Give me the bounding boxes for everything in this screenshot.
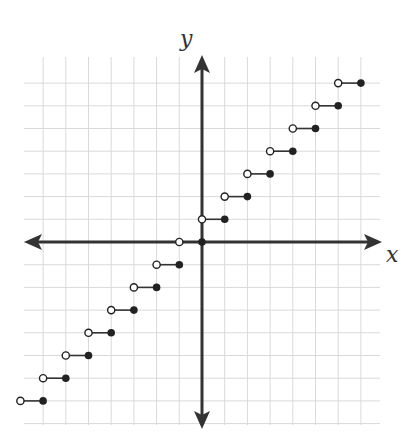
closed-endpoint-icon <box>153 284 161 292</box>
open-endpoint-icon <box>221 193 228 200</box>
closed-endpoint-icon <box>312 125 320 133</box>
open-endpoint-icon <box>198 216 205 223</box>
open-endpoint-icon <box>267 148 274 155</box>
axes: x y <box>24 26 399 429</box>
closed-endpoint-icon <box>357 79 365 87</box>
open-endpoint-icon <box>17 397 24 404</box>
closed-endpoint-icon <box>334 102 342 110</box>
open-endpoint-icon <box>40 375 47 382</box>
step-segment <box>85 329 115 337</box>
y-axis-label: y <box>179 26 193 51</box>
open-endpoint-icon <box>312 102 319 109</box>
closed-endpoint-icon <box>39 397 47 405</box>
closed-endpoint-icon <box>266 170 274 178</box>
step-segment <box>17 397 47 405</box>
step-segment <box>62 352 92 360</box>
closed-endpoint-icon <box>198 238 206 246</box>
step-segment <box>289 125 319 133</box>
step-function-graph: x y <box>0 0 410 439</box>
open-endpoint-icon <box>108 307 115 314</box>
closed-endpoint-icon <box>62 374 70 382</box>
open-endpoint-icon <box>153 261 160 268</box>
closed-endpoint-icon <box>244 193 252 201</box>
closed-endpoint-icon <box>85 352 93 360</box>
open-endpoint-icon <box>62 352 69 359</box>
open-endpoint-icon <box>85 329 92 336</box>
step-segment <box>130 284 160 292</box>
step-segment <box>312 102 342 110</box>
open-endpoint-icon <box>244 170 251 177</box>
step-segment <box>244 170 274 178</box>
closed-endpoint-icon <box>289 147 297 155</box>
step-segment <box>108 306 138 314</box>
step-segment <box>221 193 251 201</box>
step-segment <box>153 261 183 269</box>
open-endpoint-icon <box>176 238 183 245</box>
step-segment <box>267 147 297 155</box>
open-endpoint-icon <box>335 80 342 87</box>
closed-endpoint-icon <box>130 306 138 314</box>
closed-endpoint-icon <box>107 329 115 337</box>
open-endpoint-icon <box>130 284 137 291</box>
closed-endpoint-icon <box>176 261 184 269</box>
closed-endpoint-icon <box>221 216 229 224</box>
open-endpoint-icon <box>289 125 296 132</box>
step-segment <box>176 238 206 246</box>
x-axis-label: x <box>386 242 399 267</box>
step-segment <box>335 79 365 87</box>
step-segment <box>198 216 228 224</box>
step-segment <box>40 374 70 382</box>
